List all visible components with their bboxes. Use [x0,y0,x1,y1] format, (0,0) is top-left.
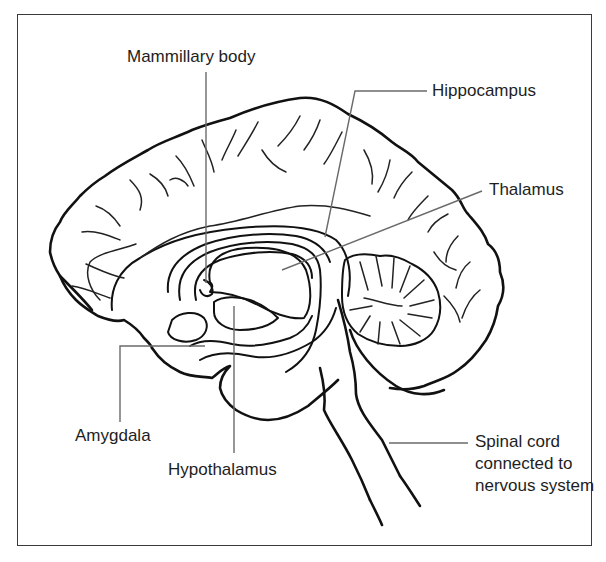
hypothalamus-region [214,297,278,330]
label-mammillary-body: Mammillary body [127,46,255,68]
label-amygdala: Amygdala [75,425,151,447]
label-hypothalamus: Hypothalamus [168,459,277,481]
cerebellum-arbor [342,254,440,346]
spinal-cord-front [400,476,420,506]
label-spinal-cord: Spinal cord connected to nervous system [475,431,595,497]
frontal-lobe-lower [60,276,92,310]
temporal-lobe-outline [152,348,338,420]
spinal-cord-back [370,500,382,525]
temporal-inner-fold [190,316,312,346]
amygdala-shape [168,313,207,342]
leader-amygdala [120,346,205,422]
label-thalamus: Thalamus [489,179,564,201]
cerebrum-outline [50,98,503,390]
brainstem-back [320,368,370,500]
cortex-sulci [72,116,480,322]
label-hippocampus: Hippocampus [432,80,536,102]
